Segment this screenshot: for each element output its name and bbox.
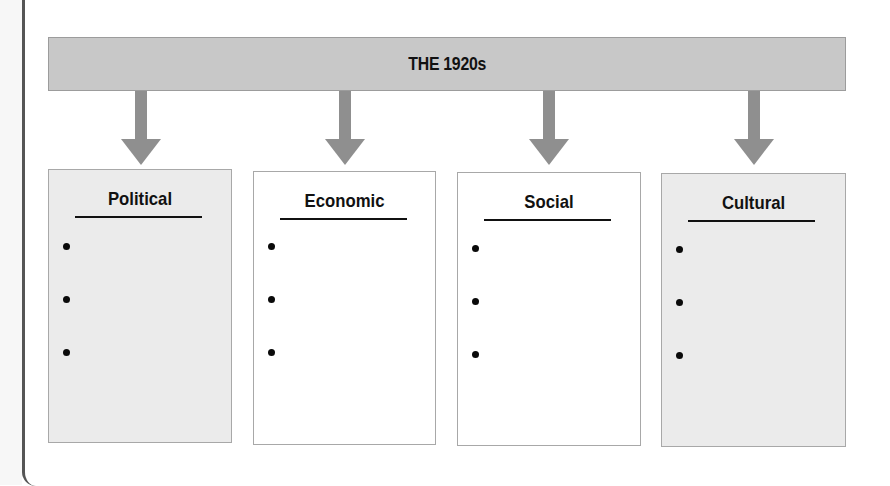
bullet-point (472, 351, 479, 358)
heading-underline (688, 220, 815, 222)
category-heading: Political (60, 188, 220, 210)
bullet-point (63, 243, 70, 250)
heading-underline (484, 219, 611, 221)
bullet-point (472, 245, 479, 252)
category-heading: Economic (265, 190, 424, 212)
bullet-point (676, 246, 683, 253)
heading-underline (75, 216, 202, 218)
bullet-point (268, 349, 275, 356)
bullet-point (676, 299, 683, 306)
arrow-down-icon (524, 91, 574, 167)
category-box-economic: Economic (253, 171, 436, 445)
left-border-corner (22, 460, 36, 486)
arrow-down-icon (729, 91, 779, 167)
category-box-political: Political (48, 169, 232, 443)
category-heading: Social (469, 191, 629, 213)
diagram-title: THE 1920s (408, 54, 486, 75)
page-margin (0, 0, 22, 485)
bullet-point (268, 243, 275, 250)
title-bar: THE 1920s (48, 37, 846, 91)
bullet-point (268, 296, 275, 303)
category-box-cultural: Cultural (661, 173, 846, 447)
left-border-rule (22, 0, 25, 472)
arrow-down-icon (320, 91, 370, 167)
category-box-social: Social (457, 172, 641, 446)
bullet-point (472, 298, 479, 305)
category-heading: Cultural (673, 192, 834, 214)
bullet-point (63, 296, 70, 303)
bullet-point (676, 352, 683, 359)
heading-underline (280, 218, 407, 220)
bullet-point (63, 349, 70, 356)
arrow-down-icon (116, 91, 166, 167)
